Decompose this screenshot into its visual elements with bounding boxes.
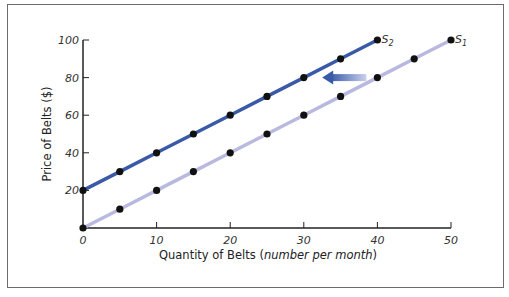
data-point (116, 206, 123, 213)
series-lines: S1S2 (79, 33, 467, 232)
data-point (337, 93, 344, 100)
data-point (153, 149, 160, 156)
x-tick-label: 10 (150, 234, 164, 247)
data-point (227, 112, 234, 119)
x-tick-label: 20 (223, 234, 237, 247)
data-point (337, 55, 344, 62)
data-point (263, 93, 270, 100)
data-point (190, 130, 197, 137)
arrow-shaft (330, 74, 366, 81)
y-tick-label: 100 (58, 34, 79, 47)
x-tick-label: 30 (297, 234, 311, 247)
data-point (153, 187, 160, 194)
data-point (374, 74, 381, 81)
y-tick-label: 80 (65, 72, 79, 85)
data-point (190, 168, 197, 175)
x-axis-title: Quantity of Belts (number per month) (159, 248, 377, 262)
data-point (79, 224, 86, 231)
y-tick-label: 60 (65, 109, 79, 122)
supply-shift-chart: 2040608010001020304050 S1S2 Quantity of … (0, 0, 509, 297)
series-label-s1: S1 (455, 33, 467, 48)
y-tick-label: 20 (65, 184, 79, 197)
data-point (79, 187, 86, 194)
data-point (374, 36, 381, 43)
data-point (116, 168, 123, 175)
arrow-left-icon (322, 71, 333, 85)
y-tick-label: 40 (65, 147, 79, 160)
y-axis-title: Price of Belts ($) (40, 86, 54, 181)
x-tick-label: 50 (444, 234, 458, 247)
shift-arrow (322, 71, 366, 85)
x-tick-label: 40 (370, 234, 384, 247)
data-point (300, 74, 307, 81)
data-point (227, 149, 234, 156)
x-tick-label: 0 (80, 234, 87, 247)
data-point (263, 130, 270, 137)
data-point (411, 55, 418, 62)
data-point (300, 112, 307, 119)
series-label-s2: S2 (381, 33, 393, 48)
data-point (447, 36, 454, 43)
